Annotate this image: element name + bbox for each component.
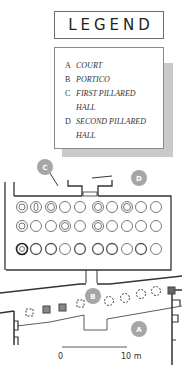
legend-title: LEGEND (54, 11, 164, 39)
legend-key: D (65, 117, 76, 126)
scale-start-label: 0 (58, 352, 63, 361)
marker-d: D (131, 170, 147, 186)
marker-label: A (136, 326, 142, 334)
marker-c: C (37, 159, 53, 175)
legend-key: A (65, 61, 76, 70)
portico-pillars (26, 287, 175, 317)
marker-label: C (42, 164, 47, 172)
legend-item-b: BPORTICO (65, 75, 110, 84)
hall-columns (17, 202, 162, 255)
legend-item-c: CFIRST PILLARED (65, 89, 136, 98)
legend-item-d-cont: HALL (65, 131, 96, 140)
legend-label: FIRST PILLARED (76, 89, 136, 98)
marker-label: D (136, 175, 142, 183)
marker-a: A (131, 321, 147, 337)
legend-label: HALL (76, 131, 96, 140)
legend-label: HALL (76, 103, 96, 112)
marker-b: B (85, 288, 101, 304)
scale-end-label: 10 m (121, 352, 142, 361)
marker-label: B (90, 293, 95, 301)
legend-label: PORTICO (76, 75, 110, 84)
temple-floor-plan: C D B A (0, 150, 192, 365)
legend-label: SECOND PILLARED (76, 117, 146, 126)
legend-key: B (65, 75, 76, 84)
legend-box: ACOURT BPORTICO CFIRST PILLARED HALL DSE… (54, 47, 164, 149)
legend-item-a: ACOURT (65, 61, 102, 70)
legend-label: COURT (76, 61, 102, 70)
legend-key: C (65, 89, 76, 98)
legend-item-c-cont: HALL (65, 103, 96, 112)
legend-item-d: DSECOND PILLARED (65, 117, 146, 126)
